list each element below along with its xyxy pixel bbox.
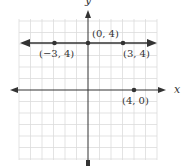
y-axis-top-arrow-icon xyxy=(85,10,91,18)
label-4-0: (4, 0) xyxy=(122,95,149,106)
label-3-4: (3, 4) xyxy=(123,48,150,59)
coordinate-plane: x y (−3, 4) (0, 4) (3, 4) (4, 0) xyxy=(0,0,189,166)
point-4-0 xyxy=(132,88,137,93)
label-0-4: (0, 4) xyxy=(92,28,119,39)
line-right-arrow-icon xyxy=(147,39,157,47)
y-axis: y xyxy=(84,0,92,166)
point-neg3-4 xyxy=(52,41,57,46)
line-left-arrow-icon xyxy=(20,39,30,47)
x-axis-left-arrow-icon xyxy=(10,87,18,93)
y-axis-bottom-arrow-icon xyxy=(86,160,90,166)
x-axis-label: x xyxy=(174,83,181,96)
x-axis-right-arrow-icon xyxy=(158,87,166,93)
point-3-4 xyxy=(121,41,126,46)
point-0-4 xyxy=(86,41,91,46)
label-neg3-4: (−3, 4) xyxy=(39,48,74,59)
x-axis: x xyxy=(10,83,181,96)
y-axis-label: y xyxy=(84,0,92,7)
